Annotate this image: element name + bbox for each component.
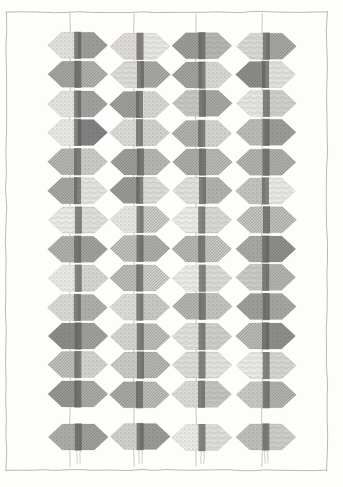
hex-spine (74, 90, 81, 117)
hex-spine (74, 294, 81, 321)
hex-right-texture (140, 265, 170, 291)
hex-cell-r6-c4 (235, 177, 295, 204)
hex-right-texture (266, 424, 296, 450)
hex-cell-r5-c2 (110, 148, 170, 175)
hex-spine (198, 206, 205, 233)
hex-cell-r2-c2 (110, 61, 170, 88)
hex-right-texture (140, 424, 170, 450)
hex-left-texture (48, 381, 78, 407)
hex-right-texture (78, 91, 108, 117)
hex-right-texture (202, 62, 232, 88)
hex-spine (74, 32, 81, 59)
hex-left-texture (236, 353, 266, 379)
hex-spine (75, 322, 82, 349)
hex-cell-r2-c1 (48, 61, 108, 88)
hex-spine (136, 91, 143, 118)
hex-right-texture (140, 177, 170, 203)
hex-right-texture (140, 294, 170, 320)
hex-spine (198, 61, 205, 88)
hex-cell-r7-c1 (48, 206, 108, 233)
hex-left-texture (109, 120, 139, 146)
frame-edge-1 (326, 11, 327, 470)
hex-spine (137, 323, 144, 350)
column-stems (77, 445, 269, 465)
hex-left-texture (48, 149, 78, 175)
hex-spine (137, 61, 144, 88)
hex-right-texture (202, 265, 232, 291)
hex-left-texture (172, 352, 202, 378)
hex-left-texture (110, 235, 140, 261)
hex-left-texture (110, 177, 140, 203)
hex-cell-r1-c3 (172, 32, 232, 59)
hex-spine (137, 148, 144, 175)
hex-spine (75, 206, 82, 233)
figure-canvas (0, 0, 343, 487)
hex-spine (262, 264, 269, 291)
hex-left-texture (110, 206, 140, 232)
hex-left-texture (48, 178, 78, 204)
hex-spine (137, 206, 144, 233)
hex-cell-r7-c2 (110, 206, 170, 233)
hex-cell-r9-c3 (172, 265, 232, 292)
hex-right-texture (140, 206, 170, 232)
hex-left-texture (110, 62, 140, 88)
hex-left-texture (48, 265, 78, 291)
hex-right-texture (77, 294, 107, 320)
hex-left-texture (236, 323, 266, 349)
hex-right-texture (78, 61, 108, 87)
hex-right-texture (78, 149, 108, 175)
hex-left-texture (48, 91, 78, 117)
hex-left-texture (48, 32, 78, 58)
hex-right-texture (139, 120, 169, 146)
hex-spine (199, 90, 206, 117)
hex-cell-r11-c1 (48, 322, 108, 349)
hex-spine (199, 293, 206, 320)
hex-left-texture (236, 61, 266, 87)
hex-spine (198, 323, 205, 350)
hex-cell-r1-c2 (110, 33, 170, 60)
hex-right-texture (78, 381, 108, 407)
hex-spine (136, 119, 143, 146)
hex-right-texture (140, 324, 170, 350)
hex-left-texture (172, 120, 202, 146)
hex-right-texture (202, 425, 232, 451)
hex-spine (198, 424, 205, 451)
frame-edge-0 (6, 11, 327, 12)
hex-right-texture (266, 294, 296, 320)
hex-cell-r11-c2 (110, 323, 170, 350)
hex-right-texture (202, 236, 232, 262)
hex-cell-r12-c1 (48, 351, 108, 378)
hex-cell-r10-c3 (172, 293, 232, 320)
hex-spine (75, 265, 82, 292)
hex-left-texture (110, 33, 140, 59)
hex-cell-r1-c4 (236, 33, 296, 60)
hex-spine (136, 294, 143, 321)
hex-right-texture (78, 424, 108, 450)
hex-cell-r6-c3 (172, 177, 232, 204)
hex-spine (263, 149, 270, 176)
hex-cell-r4-c2 (109, 119, 169, 146)
hex-cell-r8-c1 (48, 236, 108, 263)
hex-spine (262, 61, 269, 88)
hex-cell-r14-c2 (110, 423, 170, 450)
hex-left-texture (48, 236, 78, 262)
hex-right-texture (266, 149, 296, 175)
figure-root (0, 0, 343, 487)
hex-spine (262, 423, 269, 450)
hex-cell-r11-c4 (236, 322, 296, 349)
hex-spine (74, 380, 81, 407)
hex-left-texture (236, 119, 266, 145)
hex-spine (137, 235, 144, 262)
hex-spine (137, 351, 144, 378)
hex-spine (136, 264, 143, 291)
hex-cell-r12-c2 (110, 351, 170, 378)
hex-right-texture (140, 352, 170, 378)
hex-spine (198, 235, 205, 262)
hex-right-texture (202, 352, 232, 378)
hex-cell-r8-c4 (236, 235, 296, 262)
hex-cell-r6-c2 (110, 177, 170, 204)
hex-left-texture (236, 294, 266, 320)
hex-cell-r4-c3 (172, 120, 232, 147)
hex-cell-r8-c2 (110, 235, 170, 262)
hex-left-texture (172, 178, 202, 204)
